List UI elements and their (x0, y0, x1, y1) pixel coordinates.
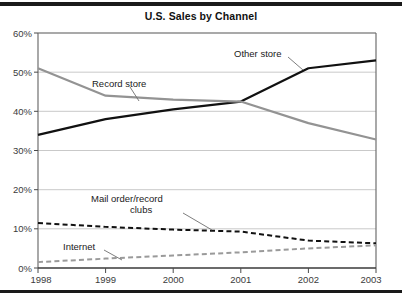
x-tick-marks (38, 268, 376, 273)
label-mail-order-line1: Mail order/record (91, 193, 163, 204)
y-tick-40: 40% (13, 106, 33, 117)
series-line-record-store (38, 68, 376, 139)
x-tick-2003: 2003 (360, 274, 381, 285)
x-tick-2000: 2000 (163, 274, 184, 285)
label-record-store: Record store (92, 78, 146, 89)
y-tick-0: 0% (18, 263, 32, 274)
series-line-other-store (38, 60, 376, 134)
y-tick-10: 10% (13, 223, 33, 234)
x-tick-1999: 1999 (95, 274, 116, 285)
y-tick-50: 50% (13, 67, 33, 78)
chart-figure: U.S. Sales by Channel (0, 0, 402, 302)
label-internet: Internet (63, 241, 96, 252)
line-chart: 60% 50% 40% 30% 20% 10% 0% 1998 1999 200… (0, 0, 402, 302)
y-tick-30: 30% (13, 145, 33, 156)
gridlines (38, 33, 376, 229)
x-tick-2002: 2002 (298, 274, 319, 285)
y-tick-20: 20% (13, 184, 33, 195)
bottom-rule (0, 290, 402, 293)
series-layer (38, 60, 376, 262)
y-tick-60: 60% (13, 28, 33, 39)
label-other-store: Other store (234, 48, 282, 59)
x-tick-2001: 2001 (230, 274, 251, 285)
label-mail-order-line2: clubs (130, 204, 152, 215)
x-tick-1998: 1998 (30, 274, 51, 285)
